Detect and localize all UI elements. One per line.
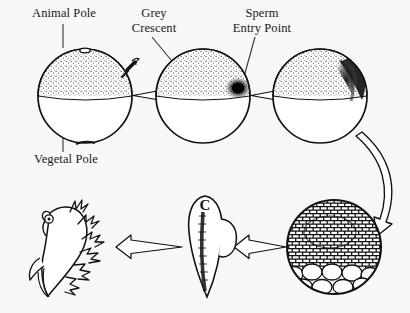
neurula-head-marking: C: [200, 197, 211, 213]
label-vegetal-pole: Vegetal Pole: [18, 152, 114, 167]
label-animal-pole: Animal Pole: [18, 6, 110, 21]
arrow-neurula-to-larva: [116, 235, 182, 259]
stage-neurula: C: [189, 196, 237, 297]
stage-unfertilized-egg: [38, 48, 132, 144]
label-sperm-entry-point: Sperm Entry Point: [216, 6, 308, 36]
label-grey-crescent: Grey Crescent: [118, 6, 190, 36]
animal-pole-marker: [80, 48, 90, 53]
stage-blastula: [285, 198, 385, 296]
stage-grey-crescent-egg: [273, 49, 367, 143]
sperm-icon: [122, 58, 139, 77]
figure-canvas: C: [0, 0, 410, 313]
stage-larva: [29, 200, 104, 297]
arrow-blastula-to-neurula: [234, 235, 286, 259]
stage-fertilized-egg: [156, 49, 251, 143]
